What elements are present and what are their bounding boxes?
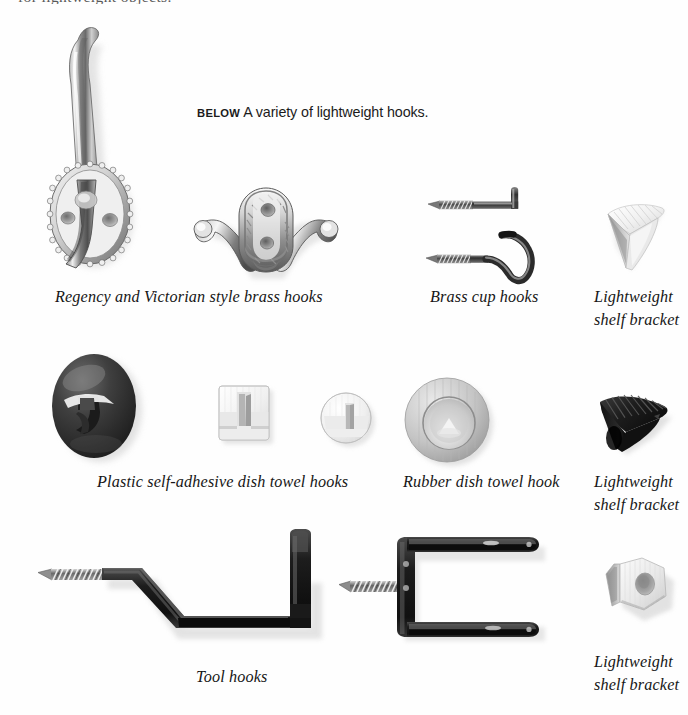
brass-coat-hook-oval-beaded-backplate-image xyxy=(38,22,148,274)
black-ribbed-wedge-shelf-support-image xyxy=(592,388,684,466)
caption-text: A variety of lightweight hooks. xyxy=(243,104,428,120)
label-regency-victorian-brass-hooks: Regency and Victorian style brass hooks xyxy=(55,286,323,309)
label-rubber-dish-towel-hook: Rubber dish towel hook xyxy=(403,471,560,494)
brass-double-hook-rope-edge-image xyxy=(183,180,348,280)
label-lightweight-shelf-bracket-3: Lightweight shelf bracket xyxy=(594,651,679,697)
label-brass-cup-hooks: Brass cup hooks xyxy=(430,286,538,309)
white-plastic-wedge-shelf-support-image xyxy=(596,194,680,280)
label-lightweight-shelf-bracket-2: Lightweight shelf bracket xyxy=(594,471,679,517)
label-tool-hooks: Tool hooks xyxy=(196,666,268,689)
figure-caption: BELOW A variety of lightweight hooks. xyxy=(197,104,428,120)
figure-page: for lightweight objects. BELOW A variety… xyxy=(0,0,688,715)
brass-cup-hooks-image xyxy=(412,186,552,286)
cropped-body-text-line: for lightweight objects. xyxy=(18,0,438,4)
label-lightweight-shelf-bracket-1: Lightweight shelf bracket xyxy=(594,286,679,332)
black-screw-in-double-prong-tool-hook-image xyxy=(333,526,555,648)
white-square-adhesive-hook-image xyxy=(213,382,283,452)
dark-oval-adhesive-hook-image xyxy=(42,352,152,462)
large-black-screw-in-z-tool-hook-image xyxy=(32,528,324,648)
caption-prefix: BELOW xyxy=(197,107,240,119)
white-round-adhesive-hook-image xyxy=(318,390,380,452)
label-plastic-self-adhesive-dish-towel-hooks: Plastic self-adhesive dish towel hooks xyxy=(97,471,348,494)
white-hexagonal-plastic-shelf-peg-image xyxy=(598,552,684,632)
grey-rubber-disc-hook-image xyxy=(403,376,499,468)
